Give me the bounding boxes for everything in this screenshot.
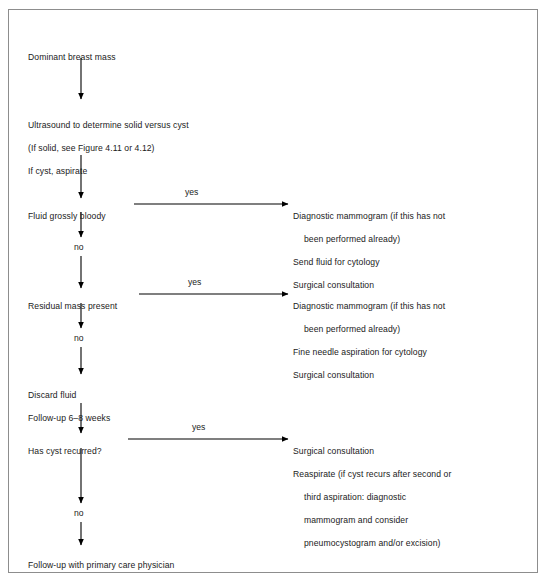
node-line: Has cyst recurred? — [28, 446, 148, 458]
node-line: Follow-up 6–8 weeks — [28, 413, 188, 425]
node-line: been performed already) — [293, 324, 533, 336]
node-line: Ultrasound to determine solid versus cys… — [28, 120, 288, 132]
edge-label-no-recurred: no — [74, 508, 84, 518]
edge-label-yes-recurred: yes — [192, 422, 205, 432]
node-line: If cyst, aspirate — [28, 166, 288, 178]
node-line: Diagnostic mammogram (if this has not — [293, 211, 533, 223]
edge-label-no-bloody: no — [74, 242, 84, 252]
node-line: Residual mass present — [28, 301, 158, 313]
node-residual-yes-outcome: Diagnostic mammogram (if this has not be… — [293, 289, 533, 393]
node-has-cyst-recurred: Has cyst recurred? — [28, 434, 148, 469]
node-line: Fluid grossly bloody — [28, 211, 148, 223]
node-line: Fine needle aspiration for cytology — [293, 347, 533, 359]
node-line: been performed already) — [293, 234, 533, 246]
node-line: Send fluid for cytology — [293, 257, 533, 269]
node-line: mammogram and consider — [293, 515, 538, 527]
node-bloody-yes-outcome: Diagnostic mammogram (if this has not be… — [293, 199, 533, 303]
node-dominant-breast-mass: Dominant breast mass — [28, 40, 248, 75]
node-line: Discard fluid — [28, 390, 188, 402]
node-line: Reaspirate (if cyst recurs after second … — [293, 469, 538, 481]
edge-label-yes-bloody: yes — [185, 187, 198, 197]
node-line: (If solid, see Figure 4.11 or 4.12) — [28, 143, 288, 155]
node-line: Follow-up with primary care physician — [28, 560, 268, 572]
node-line: Diagnostic mammogram (if this has not — [293, 301, 533, 313]
node-ultrasound-step: Ultrasound to determine solid versus cys… — [28, 108, 288, 189]
figure-canvas: Dominant breast mass Ultrasound to deter… — [0, 0, 550, 583]
edge-label-no-residual: no — [74, 333, 84, 343]
node-discard-fluid: Discard fluid Follow-up 6–8 weeks — [28, 378, 188, 436]
node-residual-mass-present: Residual mass present — [28, 289, 158, 324]
node-recurred-yes-outcome: Surgical consultation Reaspirate (if cys… — [293, 434, 538, 562]
node-follow-up-pcp: Follow-up with primary care physician — [28, 548, 268, 583]
edge-label-yes-residual: yes — [188, 277, 201, 287]
node-line: third aspiration: diagnostic — [293, 492, 538, 504]
node-fluid-grossly-bloody: Fluid grossly bloody — [28, 199, 148, 234]
node-line: Surgical consultation — [293, 446, 538, 458]
node-line: pneumocystogram and/or excision) — [293, 538, 538, 550]
node-line: Dominant breast mass — [28, 52, 248, 64]
node-line: Surgical consultation — [293, 370, 533, 382]
